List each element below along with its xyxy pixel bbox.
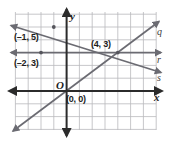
line-label-q: q bbox=[157, 27, 162, 37]
y-axis-label: y bbox=[70, 11, 75, 22]
x-axis-label: x bbox=[154, 92, 160, 103]
point-label-0-0: (0, 0) bbox=[66, 95, 86, 104]
graph-canvas bbox=[0, 0, 169, 141]
point-label-neg2-3: (–2, 3) bbox=[14, 59, 39, 68]
point-label-neg1-5: (–1, 5) bbox=[14, 33, 39, 42]
point-label-4-3: (4, 3) bbox=[91, 40, 111, 49]
line-label-s: s bbox=[157, 73, 161, 83]
line-label-r: r bbox=[157, 55, 161, 65]
point-marker-4-3 bbox=[116, 51, 120, 55]
point-marker-neg2-3 bbox=[39, 51, 43, 55]
coordinate-plane-figure: (–1, 5) (–2, 3) (4, 3) (0, 0) y x O q r … bbox=[0, 0, 169, 141]
point-marker-neg1-5 bbox=[52, 25, 56, 29]
origin-label: O bbox=[56, 80, 64, 91]
